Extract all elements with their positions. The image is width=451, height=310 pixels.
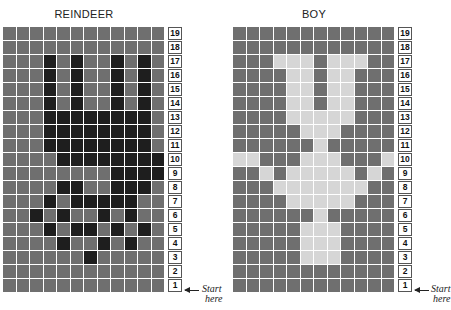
grid-cell bbox=[341, 195, 354, 208]
grid-cell bbox=[314, 209, 327, 222]
grid-cell bbox=[287, 251, 300, 264]
row-number-label: 3 bbox=[398, 251, 412, 264]
grid-cell bbox=[301, 181, 314, 194]
row-number-label: 10 bbox=[398, 153, 412, 166]
grid-cell bbox=[328, 181, 341, 194]
grid-cell bbox=[3, 125, 16, 138]
row-number-label: 6 bbox=[398, 209, 412, 222]
grid-cell bbox=[71, 209, 84, 222]
grid-cell bbox=[314, 83, 327, 96]
grid-cell bbox=[274, 251, 287, 264]
grid-cell bbox=[301, 55, 314, 68]
grid-cell bbox=[71, 41, 84, 54]
grid-cell bbox=[111, 27, 124, 40]
grid-cell bbox=[287, 55, 300, 68]
grid-cell bbox=[368, 69, 381, 82]
grid-cell bbox=[17, 223, 30, 236]
row-number-label: 13 bbox=[398, 111, 412, 124]
grid-cell bbox=[152, 223, 165, 236]
grid-cell bbox=[30, 27, 43, 40]
grid-cell bbox=[98, 27, 111, 40]
grid-cell bbox=[138, 237, 151, 250]
grid-cell bbox=[111, 265, 124, 278]
grid-cell bbox=[3, 195, 16, 208]
grid-cell bbox=[328, 237, 341, 250]
grid-cell bbox=[30, 125, 43, 138]
grid-cell bbox=[84, 167, 97, 180]
row-number-label: 16 bbox=[168, 69, 182, 82]
grid-cell bbox=[368, 111, 381, 124]
grid-cell bbox=[17, 195, 30, 208]
grid-cell bbox=[3, 167, 16, 180]
row-number-label: 14 bbox=[398, 97, 412, 110]
grid-cell bbox=[382, 265, 395, 278]
grid-cell bbox=[260, 209, 273, 222]
grid-cell bbox=[301, 237, 314, 250]
start-label-line2: here bbox=[205, 294, 222, 304]
grid-cell bbox=[44, 83, 57, 96]
grid-cell bbox=[111, 55, 124, 68]
grid-cell bbox=[3, 265, 16, 278]
grid-cell bbox=[125, 195, 138, 208]
grid-cell bbox=[57, 209, 70, 222]
grid-cell bbox=[314, 55, 327, 68]
grid-cell bbox=[355, 97, 368, 110]
grid-cell bbox=[368, 125, 381, 138]
grid-cell bbox=[3, 97, 16, 110]
grid-cell bbox=[30, 153, 43, 166]
grid-cell bbox=[287, 125, 300, 138]
start-arrow-icon bbox=[415, 290, 429, 291]
grid-cell bbox=[125, 279, 138, 292]
grid-cell bbox=[341, 153, 354, 166]
grid-cell bbox=[287, 111, 300, 124]
grid-cell bbox=[152, 153, 165, 166]
grid-cell bbox=[84, 139, 97, 152]
grid-cell bbox=[3, 209, 16, 222]
grid-cell bbox=[260, 279, 273, 292]
grid-cell bbox=[84, 83, 97, 96]
grid-cell bbox=[382, 125, 395, 138]
grid-cell bbox=[17, 55, 30, 68]
grid-cell bbox=[260, 27, 273, 40]
grid-cell bbox=[328, 139, 341, 152]
grid-cell bbox=[287, 209, 300, 222]
grid-cell bbox=[314, 153, 327, 166]
grid-cell bbox=[44, 195, 57, 208]
row-number-label: 8 bbox=[168, 181, 182, 194]
grid-cell bbox=[368, 83, 381, 96]
grid-cell bbox=[111, 41, 124, 54]
reindeer-grid bbox=[3, 27, 164, 292]
grid-cell bbox=[341, 55, 354, 68]
grid-cell bbox=[111, 195, 124, 208]
grid-cell bbox=[57, 27, 70, 40]
grid-cell bbox=[98, 97, 111, 110]
row-number-label: 11 bbox=[398, 139, 412, 152]
grid-cell bbox=[314, 181, 327, 194]
grid-cell bbox=[111, 181, 124, 194]
grid-cell bbox=[382, 209, 395, 222]
row-number-label: 5 bbox=[398, 223, 412, 236]
grid-cell bbox=[341, 139, 354, 152]
grid-cell bbox=[314, 125, 327, 138]
grid-cell bbox=[355, 41, 368, 54]
grid-cell bbox=[341, 97, 354, 110]
grid-cell bbox=[355, 167, 368, 180]
grid-cell bbox=[111, 209, 124, 222]
grid-cell bbox=[3, 55, 16, 68]
grid-cell bbox=[44, 69, 57, 82]
grid-cell bbox=[17, 167, 30, 180]
grid-cell bbox=[328, 209, 341, 222]
grid-cell bbox=[111, 153, 124, 166]
grid-cell bbox=[30, 139, 43, 152]
grid-cell bbox=[287, 195, 300, 208]
grid-cell bbox=[138, 27, 151, 40]
grid-cell bbox=[98, 265, 111, 278]
grid-cell bbox=[17, 27, 30, 40]
grid-cell bbox=[247, 125, 260, 138]
grid-cell bbox=[17, 279, 30, 292]
grid-cell bbox=[368, 223, 381, 236]
grid-cell bbox=[314, 139, 327, 152]
grid-cell bbox=[3, 139, 16, 152]
grid-cell bbox=[368, 41, 381, 54]
grid-cell bbox=[314, 223, 327, 236]
